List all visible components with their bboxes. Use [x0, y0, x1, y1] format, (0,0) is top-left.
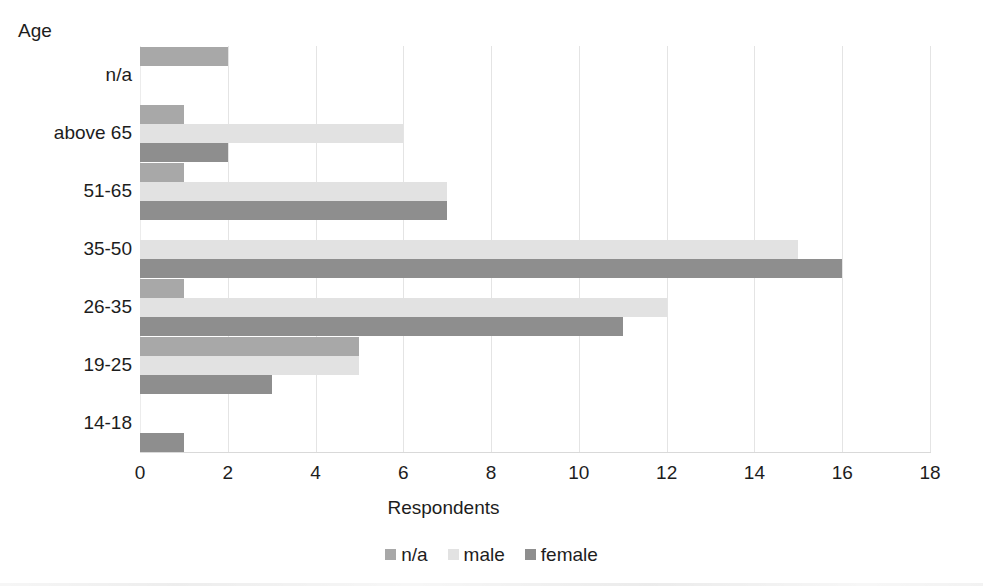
- bar-male-19-25: [140, 356, 359, 375]
- legend-item-male[interactable]: male: [448, 544, 505, 565]
- x-axis-tick-label: 6: [373, 462, 433, 484]
- bar-female-26-35: [140, 317, 623, 336]
- y-axis-category-labels: n/aabove 6551-6535-5026-3519-2514-18: [0, 46, 132, 452]
- bar-group: [140, 220, 930, 278]
- x-axis-title-text: Respondents: [388, 497, 500, 518]
- bar-female-35-50: [140, 259, 842, 278]
- y-axis-tick-label: 19-25: [4, 354, 132, 375]
- bar-na-19-25: [140, 337, 359, 356]
- legend-label: male: [464, 544, 505, 565]
- x-axis-tick-label: 2: [198, 462, 258, 484]
- bar-na-51-65: [140, 163, 184, 182]
- y-axis-title: Age: [18, 20, 52, 42]
- bar-female-14-18: [140, 433, 184, 452]
- bar-group: [140, 162, 930, 220]
- y-axis-tick-label: 26-35: [4, 296, 132, 317]
- bar-female-19-25: [140, 375, 272, 394]
- x-axis-line: [140, 452, 931, 453]
- bar-na-above-65: [140, 105, 184, 124]
- y-axis-tick-label: n/a: [4, 64, 132, 85]
- x-axis-title: Respondents: [0, 497, 983, 519]
- x-axis-tick-label: 12: [637, 462, 697, 484]
- x-axis-tick-label: 16: [812, 462, 872, 484]
- bar-group: [140, 336, 930, 394]
- bar-male-above-65: [140, 124, 403, 143]
- y-axis-tick-label: 35-50: [4, 238, 132, 259]
- chart-legend: n/amalefemale: [0, 544, 983, 565]
- y-axis-tick-label: 14-18: [4, 412, 132, 433]
- bar-na-26-35: [140, 279, 184, 298]
- y-axis-tick-label: above 65: [4, 122, 132, 143]
- bar-group: [140, 46, 930, 104]
- legend-item-female[interactable]: female: [525, 544, 598, 565]
- gridline: [930, 46, 931, 452]
- legend-label: n/a: [401, 544, 427, 565]
- scan-artifact: [0, 583, 983, 586]
- legend-swatch-icon: [385, 549, 396, 560]
- x-axis-tick-label: 8: [461, 462, 521, 484]
- bar-group: [140, 278, 930, 336]
- bar-female-above-65: [140, 143, 228, 162]
- x-axis-tick-label: 4: [286, 462, 346, 484]
- legend-item-na[interactable]: n/a: [385, 544, 427, 565]
- x-axis-tick-label: 14: [724, 462, 784, 484]
- bar-group: [140, 394, 930, 452]
- x-axis-tick-label: 10: [549, 462, 609, 484]
- y-axis-tick-label: 51-65: [4, 180, 132, 201]
- legend-label: female: [541, 544, 598, 565]
- bar-female-51-65: [140, 201, 447, 220]
- bar-male-35-50: [140, 240, 798, 259]
- x-axis-tick-label: 18: [900, 462, 960, 484]
- respondents-by-age-bar-chart: Age n/aabove 6551-6535-5026-3519-2514-18…: [0, 0, 983, 588]
- x-axis-tick-label: 0: [110, 462, 170, 484]
- bar-male-51-65: [140, 182, 447, 201]
- bar-male-26-35: [140, 298, 667, 317]
- bar-na-n-a: [140, 47, 228, 66]
- plot-area: [140, 46, 930, 452]
- legend-swatch-icon: [448, 549, 459, 560]
- bar-group: [140, 104, 930, 162]
- legend-swatch-icon: [525, 549, 536, 560]
